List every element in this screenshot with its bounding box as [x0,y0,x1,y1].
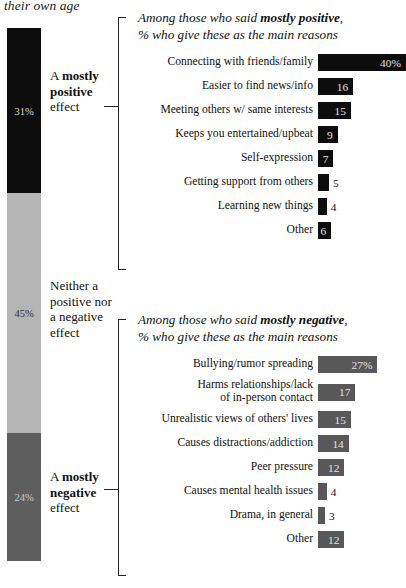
reason-label: Drama, in general [230,509,318,522]
category-label-neutral: Neither a positive nor a negative effect [50,278,120,340]
reason-value: 15 [335,414,351,426]
category-label-neutral-l1: Neither a [50,278,98,293]
reason-label: Self-expression [241,152,318,165]
reason-value: 3 [325,510,335,522]
reason-label: Keeps you entertained/upbeat [175,128,318,141]
reason-value: 16 [337,81,353,93]
stacked-segment-negative-value: 24% [7,492,41,503]
reason-row: Learning new things4 [134,195,406,218]
panel-positive-title-line2: % who give these as the main reasons [138,27,338,42]
reason-bar [318,483,327,500]
stacked-bar-chart: 31% 45% 24% [7,28,41,561]
reason-label: Meeting others w/ same interests [160,104,318,117]
reason-bar-wrap: 15 [318,408,406,431]
reason-bar [318,507,325,524]
bracket-positive [118,17,126,270]
reason-row: Keeps you entertained/upbeat9 [134,123,406,146]
reason-value: 12 [328,462,344,474]
reason-bar: 14 [318,435,349,452]
category-label-neutral-l4: effect [50,325,79,340]
panel-negative-title-emphasis: mostly negative [260,312,344,327]
reason-row: Peer pressure12 [134,456,406,479]
reason-label: Easier to find news/info [202,80,318,93]
reason-value: 9 [327,129,338,141]
reason-value: 40% [380,57,406,69]
category-label-negative-l2: negative [50,485,96,500]
reason-value: 4 [327,201,337,213]
category-label-negative-l3: effect [50,500,79,515]
reason-row: Getting support from others5 [134,171,406,194]
reason-bar-wrap: 27% [318,353,406,376]
reason-row: Easier to find news/info16 [134,75,406,98]
reason-row: Other12 [134,528,406,551]
bracket-connector-positive [104,106,119,107]
panel-positive-title-part1: Among those who said [138,10,260,25]
reason-bar [318,174,329,191]
bracket-connector-negative [104,489,119,490]
reason-value: 6 [320,225,331,237]
reason-label: Getting support from others [184,176,318,189]
panel-negative-title-line2: % who give these as the main reasons [138,329,338,344]
stacked-segment-neutral-value: 45% [7,308,41,319]
reason-bar-wrap: 4 [318,480,406,503]
reason-bar: 12 [318,459,344,476]
reason-row: Meeting others w/ same interests15 [134,99,406,122]
reason-bar: 7 [318,150,333,167]
reason-bar-wrap: 12 [318,528,406,551]
category-label-positive: A mostly positive effect [50,68,120,115]
reason-row: Bullying/rumor spreading27% [134,353,406,376]
headline-fragment: their own age [4,0,80,14]
category-label-positive-l2: positive [50,84,93,99]
panel-positive-title-emphasis: mostly positive [260,10,339,25]
reason-label: Causes distractions/addiction [177,437,318,450]
reason-bar-wrap: 15 [318,99,406,122]
reason-bar-wrap: 40% [318,51,406,74]
reason-bar-wrap: 16 [318,75,406,98]
reason-label: Peer pressure [251,461,318,474]
reason-bar: 27% [318,356,377,373]
positive-reason-rows: Connecting with friends/family40%Easier … [134,51,406,242]
panel-positive-reasons: Among those who said mostly positive, % … [134,10,406,243]
panel-positive-title-part2: , [340,10,343,25]
reason-value: 15 [335,105,351,117]
negative-reason-rows: Bullying/rumor spreading27%Harms relatio… [134,353,406,551]
reason-bar-wrap: 5 [318,171,406,194]
category-label-positive-l3: effect [50,99,79,114]
reason-bar: 40% [318,54,406,71]
reason-row: Drama, in general3 [134,504,406,527]
reason-label: Other [287,224,318,237]
reason-label: Bullying/rumor spreading [193,358,318,371]
stacked-segment-negative: 24% [7,433,41,561]
reason-row: Unrealistic views of others' lives15 [134,408,406,431]
reason-bar-wrap: 14 [318,432,406,455]
category-label-neutral-l2: positive nor [50,294,112,309]
reason-bar: 6 [318,222,331,239]
reason-bar-wrap: 17 [318,377,406,407]
reason-value: 27% [352,359,378,371]
reason-bar: 15 [318,411,351,428]
panel-negative-title-part2: , [344,312,347,327]
reason-bar: 15 [318,102,351,119]
category-label-positive-bold: mostly [62,68,99,83]
reason-value: 4 [327,486,337,498]
reason-label: Unrealistic views of others' lives [162,413,318,426]
reason-bar-wrap: 12 [318,456,406,479]
reason-value: 5 [329,177,339,189]
reason-value: 12 [328,534,344,546]
panel-negative-reasons: Among those who said mostly negative, % … [134,312,406,552]
reason-bar: 12 [318,531,344,548]
reason-label: Learning new things [218,200,318,213]
reason-bar-wrap: 6 [318,219,406,242]
panel-negative-title: Among those who said mostly negative, % … [138,312,406,345]
reason-row: Self-expression7 [134,147,406,170]
panel-positive-title: Among those who said mostly positive, % … [138,10,406,43]
stacked-segment-positive: 31% [7,28,41,193]
reason-bar-wrap: 9 [318,123,406,146]
reason-label: Other [287,533,318,546]
reason-bar: 16 [318,78,353,95]
category-label-negative: A mostly negative effect [50,469,120,516]
bracket-negative [118,319,126,576]
reason-bar: 9 [318,126,338,143]
reason-value: 14 [332,438,348,450]
reason-bar [318,198,327,215]
